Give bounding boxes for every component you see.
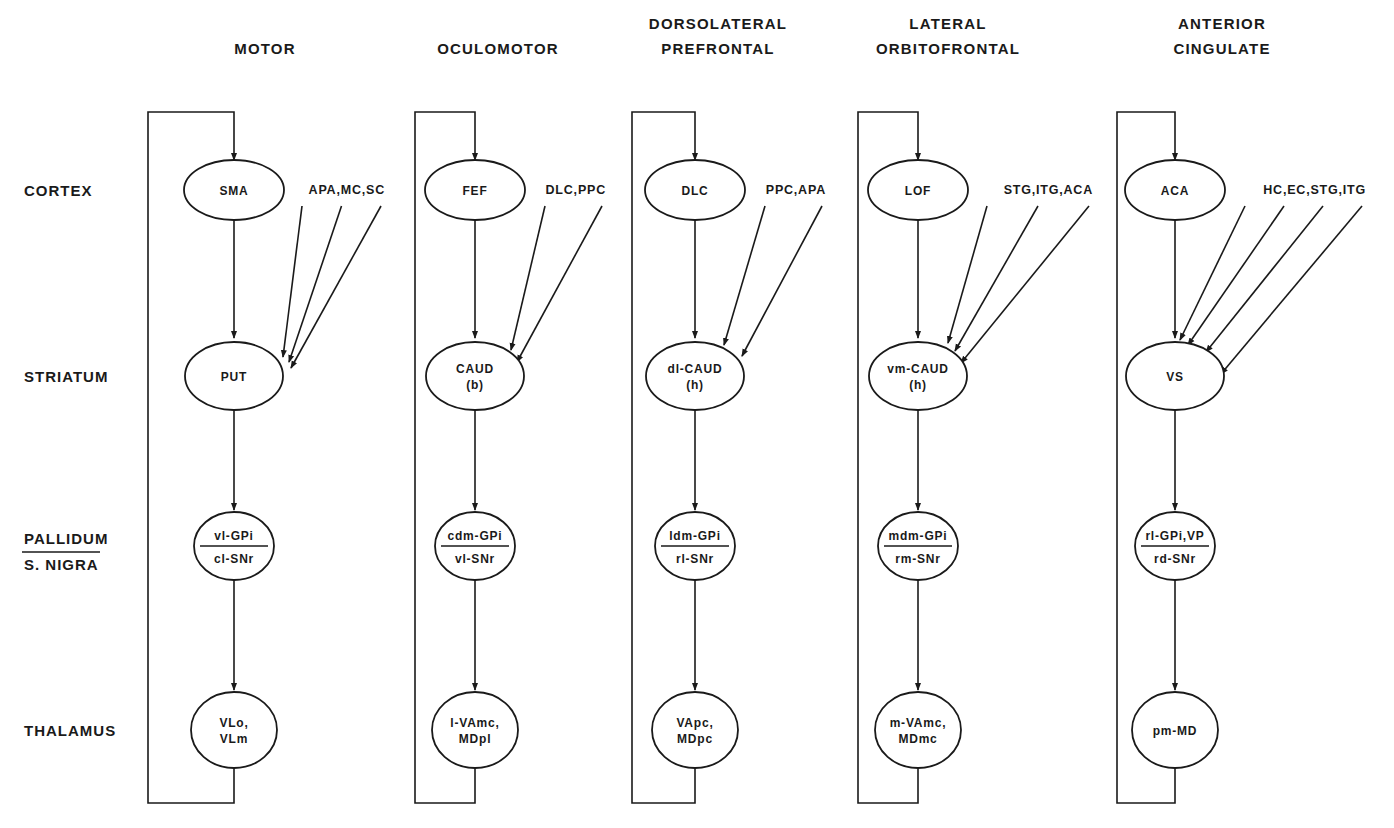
striatum-node-label: vm-CAUD: [887, 362, 949, 376]
cortical-input-arrow: [291, 206, 381, 368]
thalamus-node-label: m-VAmc,: [890, 716, 947, 730]
thalamus-node-label: VLo,: [219, 716, 248, 730]
cortical-inputs-label: PPC,APA: [766, 183, 826, 197]
pallidum-label: mdm-GPi: [889, 529, 948, 543]
cortical-input-arrow: [1221, 206, 1362, 374]
cortical-input-arrow: [1206, 206, 1323, 352]
thalamus-node-label: l-VAmc,: [450, 716, 499, 730]
striatum-node-label: dl-CAUD: [668, 362, 723, 376]
striatum-node-label: CAUD: [456, 362, 494, 376]
pallidum-label: ldm-GPi: [669, 529, 721, 543]
circuit-column-dorsolateral-prefrontal: DORSOLATERALPREFRONTALDLCPPC,APAdl-CAUD(…: [632, 15, 826, 803]
cortical-inputs-label: APA,MC,SC: [309, 183, 385, 197]
thalamus-node-label: VApc,: [676, 716, 713, 730]
row-label-striatum: STRIATUM: [24, 368, 108, 385]
circuit-title: ORBITOFRONTAL: [876, 40, 1020, 57]
cortical-inputs-label: STG,ITG,ACA: [1004, 183, 1093, 197]
circuit-title: PREFRONTAL: [661, 40, 774, 57]
cortex-node-label: ACA: [1161, 184, 1189, 198]
cortical-input-arrow: [511, 206, 545, 350]
cortical-input-arrow: [742, 206, 822, 356]
thalamus-node: [432, 692, 518, 768]
basal-ganglia-circuits-diagram: CORTEX STRIATUM PALLIDUM S. NIGRA THALAM…: [0, 0, 1394, 828]
thalamus-node-label: pm-MD: [1153, 724, 1198, 738]
thalamus-node-sublabel: MDpc: [677, 732, 713, 746]
striatum-node-sublabel: (b): [466, 378, 484, 392]
cortical-inputs-label: HC,EC,STG,ITG: [1263, 183, 1366, 197]
pallidum-label: vl-GPi: [214, 529, 253, 543]
thalamus-node: [875, 692, 961, 768]
cortical-input-arrow: [948, 206, 987, 343]
circuit-column-lateral-orbitofrontal: LATERALORBITOFRONTALLOFSTG,ITG,ACAvm-CAU…: [858, 15, 1093, 803]
striatum-node: [646, 342, 744, 410]
striatum-node: [869, 342, 967, 410]
thalamus-node: [652, 692, 738, 768]
striatum-node-sublabel: (h): [909, 378, 927, 392]
striatum-node: [426, 342, 524, 410]
cortex-node-label: FEF: [462, 184, 487, 198]
circuit-column-oculomotor: OCULOMOTORFEFDLC,PPCCAUD(b)cdm-GPivl-SNr…: [415, 40, 606, 803]
cortical-input-arrow: [517, 206, 602, 362]
thalamus-node-sublabel: MDpl: [459, 732, 492, 746]
nigra-label: rd-SNr: [1154, 552, 1196, 566]
circuit-title-line1: ANTERIOR: [1178, 15, 1266, 32]
pallidum-label: rl-GPi,VP: [1145, 529, 1204, 543]
row-label-nigra: S. NIGRA: [24, 556, 99, 573]
circuit-column-motor: MOTORSMAAPA,MC,SCPUTvl-GPicl-SNrVLo,VLm: [148, 40, 385, 803]
thalamus-node-sublabel: MDmc: [898, 732, 937, 746]
striatum-node-label: VS: [1166, 370, 1184, 384]
circuit-title: MOTOR: [234, 40, 296, 57]
cortical-input-arrow: [1188, 206, 1284, 345]
cortex-node-label: SMA: [219, 184, 248, 198]
thalamus-node-sublabel: VLm: [220, 732, 248, 746]
cortical-input-arrow: [283, 206, 302, 357]
cortical-input-arrow: [1180, 206, 1245, 340]
nigra-label: rm-SNr: [895, 552, 940, 566]
nigra-label: rl-SNr: [676, 552, 714, 566]
row-label-cortex: CORTEX: [24, 182, 93, 199]
striatum-node-label: PUT: [221, 370, 247, 384]
thalamus-node: [191, 692, 277, 768]
cortical-inputs-label: DLC,PPC: [546, 183, 606, 197]
circuit-title-line1: LATERAL: [909, 15, 986, 32]
striatum-node-sublabel: (h): [686, 378, 704, 392]
row-label-pallidum: PALLIDUM: [24, 530, 108, 547]
circuit-title: OCULOMOTOR: [437, 40, 559, 57]
cortical-input-arrow: [289, 206, 342, 362]
nigra-label: vl-SNr: [455, 552, 495, 566]
pallidum-label: cdm-GPi: [448, 529, 503, 543]
cortex-node-label: LOF: [905, 184, 931, 198]
cortical-input-arrow: [955, 206, 1038, 351]
cortex-node-label: DLC: [681, 184, 708, 198]
circuit-column-anterior-cingulate: ANTERIORCINGULATEACAHC,EC,STG,ITGVSrl-GP…: [1117, 15, 1366, 803]
row-label-thalamus: THALAMUS: [24, 722, 116, 739]
circuit-title-line1: DORSOLATERAL: [649, 15, 787, 32]
circuit-title: CINGULATE: [1173, 40, 1270, 57]
nigra-label: cl-SNr: [214, 552, 254, 566]
